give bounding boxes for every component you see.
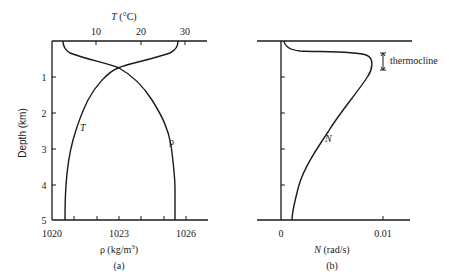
panel-a-label: (a) bbox=[113, 260, 124, 272]
depth-tick-label: 5 bbox=[42, 215, 47, 226]
temperature-tick-label: 20 bbox=[136, 26, 146, 37]
panel-b-label: (b) bbox=[326, 260, 338, 272]
panel-a: 10 20 30 T (°C) 1 2 3 4 5 Depth (km) 102… bbox=[17, 11, 208, 272]
buoyancy-frequency-curve bbox=[284, 41, 372, 220]
density-axis-title: ρ (kg/m3) bbox=[100, 243, 138, 256]
temperature-curve-label: T bbox=[80, 122, 87, 133]
thermocline-bracket-icon bbox=[380, 53, 386, 70]
n-tick-label: 0 bbox=[279, 228, 284, 239]
depth-tick-label: 3 bbox=[42, 144, 47, 155]
density-tick-label: 1023 bbox=[109, 228, 129, 239]
thermocline-annotation: thermocline bbox=[390, 55, 438, 66]
density-tick-label: 1026 bbox=[176, 228, 196, 239]
n-depth-ticks bbox=[281, 77, 383, 220]
temperature-axis-title: T (°C) bbox=[111, 11, 136, 23]
n-curve-label: N bbox=[324, 133, 333, 144]
depth-tick-label: 1 bbox=[42, 72, 47, 83]
n-axis-title: N (rad/s) bbox=[313, 244, 349, 256]
depth-tick-label: 2 bbox=[42, 108, 47, 119]
density-tick-label: 1020 bbox=[42, 228, 62, 239]
temperature-tick-label: 30 bbox=[180, 26, 190, 37]
depth-tick-label: 4 bbox=[42, 180, 47, 191]
ocean-profile-figure: 10 20 30 T (°C) 1 2 3 4 5 Depth (km) 102… bbox=[0, 0, 449, 280]
temperature-tick-label: 10 bbox=[91, 26, 101, 37]
n-tick-label: 0.01 bbox=[374, 228, 392, 239]
depth-axis-title: Depth (km) bbox=[17, 108, 28, 157]
density-curve-label: ρ bbox=[169, 136, 174, 147]
panel-b: 0 0.01 N (rad/s) (b) N thermocline bbox=[257, 41, 438, 272]
